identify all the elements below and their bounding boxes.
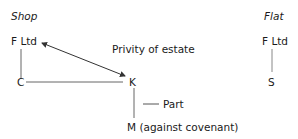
part-label: Part: [163, 98, 184, 110]
node-k: K: [129, 76, 136, 88]
node-f-ltd-flat: F Ltd: [262, 35, 288, 47]
diagram-lines: [0, 0, 298, 139]
node-s: S: [268, 76, 275, 88]
shop-heading: Shop: [11, 10, 37, 22]
flat-heading: Flat: [264, 10, 284, 22]
privity-label: Privity of estate: [112, 43, 195, 55]
node-f-ltd-shop: F Ltd: [11, 35, 37, 47]
node-c: C: [17, 76, 24, 88]
node-m: M (against covenant): [127, 121, 238, 133]
